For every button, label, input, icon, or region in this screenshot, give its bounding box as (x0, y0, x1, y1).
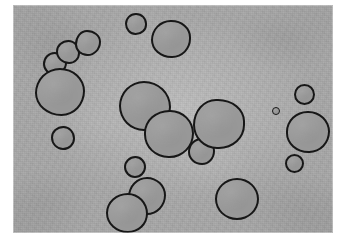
droplet-19 (215, 178, 259, 220)
image-caption: Grayscale micrograph showing dark-outlin… (0, 0, 1, 1)
droplet-14 (286, 111, 330, 153)
droplet-13 (272, 107, 280, 115)
droplet-06 (125, 13, 147, 35)
micrograph-page: Grayscale micrograph showing dark-outlin… (0, 0, 337, 245)
droplet-07 (151, 20, 191, 58)
droplet-05 (51, 126, 75, 150)
droplet-18 (106, 193, 148, 233)
droplet-15 (285, 154, 304, 173)
droplet-04 (35, 68, 85, 116)
micrograph-plate (13, 5, 333, 233)
droplet-12 (294, 84, 315, 105)
droplet-09 (144, 110, 194, 158)
droplet-16 (124, 156, 146, 178)
droplet-11 (193, 99, 245, 149)
